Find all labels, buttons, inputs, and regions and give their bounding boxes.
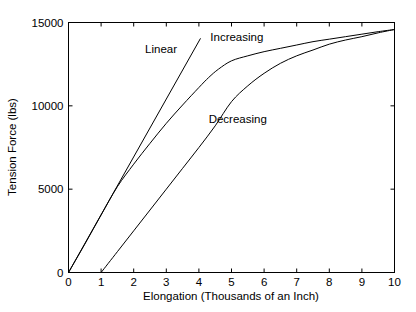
x-tick-label: 4 — [196, 276, 203, 288]
tension-elongation-chart: 012345678910 050001000015000 Elongation … — [0, 0, 416, 312]
y-tick-label: 15000 — [32, 17, 64, 29]
y-tick-label: 5000 — [38, 183, 64, 195]
x-tick-label: 5 — [228, 276, 234, 288]
x-tick-label: 7 — [293, 276, 299, 288]
x-axis-title: Elongation (Thousands of an Inch) — [143, 290, 319, 302]
y-tick-label: 0 — [57, 267, 63, 279]
x-tick-label: 2 — [130, 276, 136, 288]
y-tick-label: 10000 — [32, 100, 64, 112]
chart-background — [0, 0, 416, 312]
curve-label-decreasing: Decreasing — [209, 113, 267, 125]
curve-label-linear: Linear — [145, 43, 177, 55]
x-tick-label: 10 — [388, 276, 401, 288]
x-tick-label: 8 — [326, 276, 332, 288]
curve-label-increasing: Increasing — [210, 31, 263, 43]
x-tick-label: 1 — [98, 276, 104, 288]
y-axis-title: Tension Force (lbs) — [6, 98, 18, 196]
x-tick-label: 9 — [359, 276, 365, 288]
x-tick-label: 3 — [163, 276, 169, 288]
x-tick-label: 6 — [261, 276, 267, 288]
x-tick-label: 0 — [65, 276, 71, 288]
chart-figure: 012345678910 050001000015000 Elongation … — [0, 0, 416, 312]
